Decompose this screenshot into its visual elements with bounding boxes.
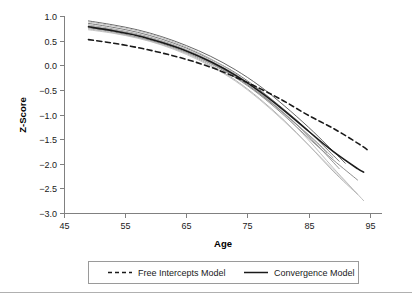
series-line	[88, 29, 357, 194]
y-tick-marks	[60, 17, 64, 214]
y-tick-label: −2.0	[39, 160, 57, 170]
y-tick-labels: 1.00.50.0−0.5−1.0−1.5−2.0−2.5−3.0	[39, 12, 57, 219]
y-tick-label: 1.0	[44, 12, 57, 22]
y-tick-label: −2.5	[39, 184, 57, 194]
y-tick-label: −3.0	[39, 209, 57, 219]
y-axis-title: Z-Score	[17, 97, 28, 132]
legend-items: Free Intercepts ModelConvergence Model	[108, 268, 355, 278]
legend: Free Intercepts ModelConvergence Model	[89, 262, 359, 284]
series-line	[88, 23, 339, 161]
series-line	[88, 21, 345, 163]
legend-label: Free Intercepts Model	[138, 268, 226, 278]
legend-label: Convergence Model	[274, 268, 355, 278]
y-axis: 1.00.50.0−0.5−1.0−1.5−2.0−2.5−3.0	[39, 12, 64, 219]
y-tick-label: 0.5	[44, 37, 57, 47]
y-tick-label: −1.0	[39, 111, 57, 121]
x-axis-title: Age	[214, 238, 232, 249]
x-tick-label: 65	[181, 221, 191, 231]
series-line	[88, 40, 369, 152]
y-tick-label: −1.5	[39, 135, 57, 145]
x-tick-label: 45	[59, 221, 69, 231]
series-line	[88, 25, 327, 153]
y-tick-label: −0.5	[39, 86, 57, 96]
x-tick-label: 75	[242, 221, 252, 231]
x-tick-label: 55	[120, 221, 130, 231]
x-axis: 455565758595	[59, 213, 382, 231]
series-line	[88, 28, 357, 180]
y-tick-label: 0.0	[44, 61, 57, 71]
x-tick-labels: 455565758595	[59, 221, 375, 231]
series-line	[88, 27, 339, 169]
series-line	[88, 22, 363, 201]
figure-container: 1.00.50.0−0.5−1.0−1.5−2.0−2.5−3.0 455565…	[0, 0, 412, 302]
data-series-group	[88, 21, 369, 201]
x-tick-label: 95	[365, 221, 375, 231]
z-score-age-line-chart: 1.00.50.0−0.5−1.0−1.5−2.0−2.5−3.0 455565…	[0, 0, 412, 302]
plot-area: 1.00.50.0−0.5−1.0−1.5−2.0−2.5−3.0 455565…	[39, 12, 382, 231]
x-tick-label: 85	[304, 221, 314, 231]
series-line	[88, 30, 351, 188]
